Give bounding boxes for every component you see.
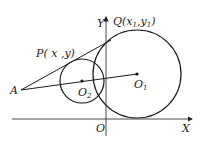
point-o1	[135, 72, 138, 75]
label-o2: O2	[78, 86, 92, 100]
point-o2	[80, 79, 83, 82]
label-p: P( x ,y)	[35, 47, 75, 60]
label-y-axis: Y	[97, 17, 106, 30]
label-a: A	[9, 84, 18, 97]
label-x-axis: X	[181, 122, 191, 135]
label-origin: O	[96, 122, 105, 135]
label-o1: O1	[134, 78, 148, 92]
label-q: Q(x1,y1)	[113, 15, 155, 29]
geometry-diagram: Y X O A P( x ,y) Q(x1,y1) O1 O2	[0, 0, 201, 144]
